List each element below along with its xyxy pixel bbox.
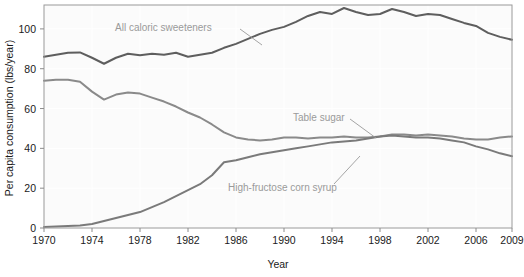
- x-axis-tick-label: 1978: [128, 234, 152, 246]
- x-axis-tick-label: 1970: [32, 234, 56, 246]
- x-axis-tick-label: 2009: [500, 234, 524, 246]
- table-sugar-label: Table sugar: [293, 112, 345, 123]
- x-axis-tick-label: 1990: [272, 234, 296, 246]
- x-axis-tick-label: 1998: [368, 234, 392, 246]
- x-axis-tick-label: 1986: [224, 234, 248, 246]
- x-axis-tick-label: 2006: [464, 234, 488, 246]
- y-axis-tick-label: 80: [24, 63, 36, 75]
- y-axis-tick-label: 0: [30, 222, 36, 234]
- y-axis-tick-label: 40: [24, 142, 36, 154]
- plot-background: [44, 5, 512, 228]
- y-axis: 020406080100: [18, 23, 44, 234]
- line-chart: 1970197419781982198619901994199820022006…: [0, 0, 524, 277]
- y-axis-title: Per capita consumption (lbs/year): [3, 40, 15, 196]
- y-axis-tick-label: 20: [24, 182, 36, 194]
- x-axis: 1970197419781982198619901994199820022006…: [32, 228, 524, 246]
- x-axis-tick-label: 2002: [416, 234, 440, 246]
- y-axis-tick-label: 100: [18, 23, 36, 35]
- x-axis-title: Year: [267, 258, 289, 270]
- x-axis-tick-label: 1994: [320, 234, 344, 246]
- x-axis-tick-label: 1974: [80, 234, 104, 246]
- all-caloric-sweeteners-label: All caloric sweeteners: [115, 22, 212, 33]
- y-axis-tick-label: 60: [24, 103, 36, 115]
- high-fructose-corn-syrup-label: High-fructose corn syrup: [228, 182, 337, 193]
- chart-container: 1970197419781982198619901994199820022006…: [0, 0, 524, 277]
- x-axis-tick-label: 1982: [176, 234, 200, 246]
